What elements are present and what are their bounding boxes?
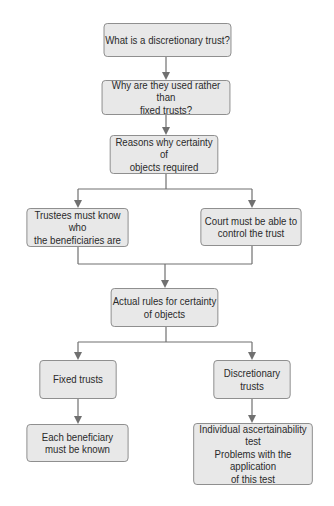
node-text: objects required <box>130 161 199 174</box>
node-text: of objects <box>144 308 185 321</box>
node-text: the beneficiaries are <box>34 234 121 247</box>
node-why-used: Why are they used rather than fixed trus… <box>102 80 231 115</box>
node-text: of this test <box>231 473 275 486</box>
node-text: control the trust <box>218 227 285 240</box>
node-actual-rules: Actual rules for certainty of objects <box>111 288 219 327</box>
node-text: Individual ascertainability test <box>194 423 312 448</box>
node-text: Why are they used rather than <box>103 79 230 104</box>
node-text: Fixed trusts <box>53 373 103 386</box>
node-text: trusts <box>240 380 264 393</box>
node-reasons-certainty: Reasons why certainty of objects require… <box>110 135 219 174</box>
node-discretionary-trusts: Discretionary trusts <box>213 360 290 399</box>
node-text: Trustees must know who <box>27 209 127 234</box>
node-court-control: Court must be able to control the trust <box>200 208 301 246</box>
node-text: Each beneficiary <box>42 431 113 444</box>
node-each-beneficiary: Each beneficiary must be known <box>26 424 128 462</box>
node-trustees-must-know: Trustees must know who the beneficiaries… <box>26 208 128 247</box>
node-text: Problems with the application <box>194 448 312 473</box>
node-text: Actual rules for certainty <box>113 295 217 308</box>
node-text: What is a discretionary trust? <box>105 34 230 47</box>
node-text: Court must be able to <box>205 215 297 228</box>
node-text: fixed trusts? <box>140 104 192 117</box>
node-individual-ascertainability: Individual ascertainability test Problem… <box>193 423 313 485</box>
node-text: Discretionary <box>224 367 280 380</box>
node-text: must be known <box>45 443 110 456</box>
node-what-is-discretionary-trust: What is a discretionary trust? <box>104 23 232 57</box>
node-fixed-trusts: Fixed trusts <box>39 360 116 399</box>
node-text: Reasons why certainty of <box>111 136 218 161</box>
